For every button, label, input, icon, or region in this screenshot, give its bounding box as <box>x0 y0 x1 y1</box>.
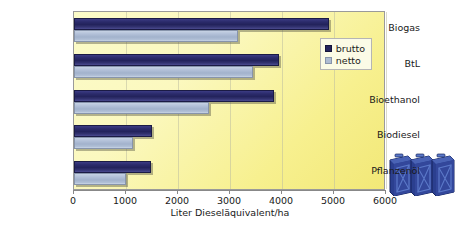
bar-body <box>74 102 209 114</box>
bar-netto-biogas <box>74 30 238 42</box>
bar-body <box>74 18 329 30</box>
legend-item-brutto: brutto <box>325 42 365 54</box>
jerrycan-icon-3 <box>428 152 458 196</box>
x-axis-title: Liter Dieseläquivalent/ha <box>0 207 420 218</box>
bar-body <box>74 137 133 149</box>
bar-netto-biodiesel <box>74 137 133 149</box>
bar-netto-btl <box>74 66 253 78</box>
category-label-pflanzenöl: Pflanzenöl <box>351 165 420 176</box>
x-tick-label: 0 <box>70 195 76 206</box>
x-tick <box>229 190 230 194</box>
gridline <box>282 12 283 189</box>
x-tick <box>125 190 126 194</box>
bar-body <box>74 66 253 78</box>
x-tick-label: 6000 <box>373 195 397 206</box>
x-tick <box>281 190 282 194</box>
x-tick-label: 5000 <box>321 195 345 206</box>
x-tick-label: 4000 <box>269 195 293 206</box>
category-label-bioethanol: Bioethanol <box>351 94 420 105</box>
x-tick-label: 2000 <box>165 195 189 206</box>
category-label-biogas: Biogas <box>351 22 420 33</box>
bar-body <box>74 90 274 102</box>
x-tick-label: 3000 <box>217 195 241 206</box>
bar-brutto-btl <box>74 54 279 66</box>
plot-area: brutto netto <box>73 11 385 190</box>
category-label-biodiesel: Biodiesel <box>351 129 420 140</box>
x-tick <box>385 190 386 194</box>
legend-swatch-brutto <box>325 45 332 52</box>
bar-body <box>74 125 152 137</box>
bar-netto-pflanzenöl <box>74 173 126 185</box>
legend-swatch-netto <box>325 57 332 64</box>
bar-body <box>74 173 126 185</box>
bar-body <box>74 30 238 42</box>
bar-brutto-biodiesel <box>74 125 152 137</box>
x-tick <box>73 190 74 194</box>
x-tick <box>333 190 334 194</box>
bar-body <box>74 161 151 173</box>
bar-brutto-biogas <box>74 18 329 30</box>
bar-netto-bioethanol <box>74 102 209 114</box>
bar-brutto-bioethanol <box>74 90 274 102</box>
bar-brutto-pflanzenöl <box>74 161 151 173</box>
x-tick <box>177 190 178 194</box>
category-label-btl: BtL <box>351 58 420 69</box>
bar-body <box>74 54 279 66</box>
legend-label-brutto: brutto <box>336 43 365 54</box>
x-tick-label: 1000 <box>113 195 137 206</box>
